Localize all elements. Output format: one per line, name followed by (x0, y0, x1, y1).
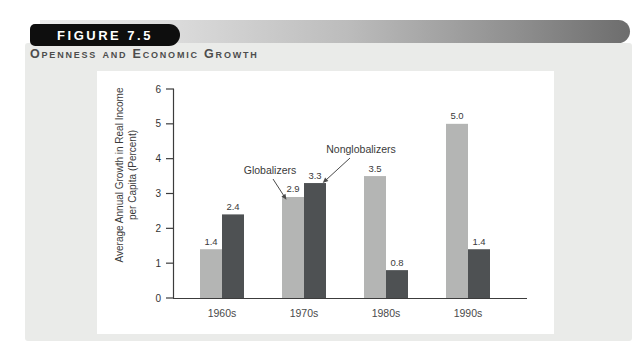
x-axis-label-1960s: 1960s (208, 307, 237, 319)
bar-nonglobalizers-1970s (304, 183, 326, 298)
y-tick-label: 3 (155, 188, 161, 199)
y-tick-label: 5 (155, 118, 161, 129)
bar-nonglobalizers-1990s (468, 249, 490, 298)
figure-page: FIGURE 7.5 Openness and Economic Growth … (0, 0, 642, 347)
y-tick-label: 1 (155, 258, 161, 269)
figure-subtitle: Openness and Economic Growth (30, 47, 259, 61)
value-label: 2.4 (226, 201, 239, 212)
value-label: 1.4 (472, 236, 485, 247)
value-label: 2.9 (286, 183, 299, 194)
annotation-globalizers: Globalizers (244, 164, 297, 176)
y-tick-label: 0 (155, 293, 161, 304)
bar-globalizers-1980s (364, 176, 386, 298)
x-axis-label-1990s: 1990s (454, 307, 483, 319)
x-axis-label-1980s: 1980s (372, 307, 401, 319)
annotation-nonglobalizers: Nonglobalizers (326, 143, 395, 155)
bar-nonglobalizers-1980s (386, 270, 408, 298)
bar-nonglobalizers-1960s (222, 214, 244, 298)
annotation-arrow-line (326, 158, 350, 180)
bar-globalizers-1970s (282, 197, 304, 298)
y-axis-title: Average Annual Growth in Real Incomeper … (114, 87, 138, 262)
value-label: 3.3 (308, 170, 321, 181)
figure-badge-label: FIGURE 7.5 (57, 28, 153, 43)
value-label: 0.8 (390, 257, 403, 268)
bar-chart: 01234561.42.93.55.02.43.30.81.41960s1970… (97, 71, 554, 334)
value-label: 5.0 (450, 110, 463, 121)
y-tick-label: 6 (155, 84, 161, 95)
figure-badge: FIGURE 7.5 (30, 24, 180, 46)
chart-panel: 01234561.42.93.55.02.43.30.81.41960s1970… (97, 71, 554, 334)
y-tick-label: 2 (155, 223, 161, 234)
x-axis-label-1970s: 1970s (290, 307, 319, 319)
y-tick-label: 4 (155, 153, 161, 164)
annotation-arrow-line (273, 179, 284, 196)
value-label: 1.4 (204, 236, 217, 247)
value-label: 3.5 (368, 163, 381, 174)
bar-globalizers-1990s (446, 124, 468, 298)
bar-globalizers-1960s (200, 249, 222, 298)
